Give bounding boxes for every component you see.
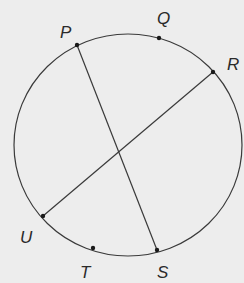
chords-group bbox=[43, 45, 213, 250]
chord-ps bbox=[77, 45, 157, 250]
chord-ru bbox=[43, 72, 213, 216]
labels-group: PQRUTS bbox=[20, 9, 239, 282]
circle-diagram: PQRUTS bbox=[0, 0, 244, 283]
circle bbox=[14, 34, 242, 256]
label-u: U bbox=[20, 228, 33, 247]
diagram-canvas: PQRUTS bbox=[0, 0, 244, 283]
label-r: R bbox=[227, 55, 239, 74]
point-r bbox=[211, 70, 215, 74]
label-p: P bbox=[60, 23, 72, 42]
point-s bbox=[155, 248, 159, 252]
label-t: T bbox=[80, 263, 92, 282]
point-p bbox=[75, 43, 79, 47]
point-t bbox=[91, 246, 95, 250]
point-q bbox=[157, 36, 161, 40]
label-s: S bbox=[157, 263, 169, 282]
point-u bbox=[41, 214, 45, 218]
label-q: Q bbox=[157, 9, 170, 28]
